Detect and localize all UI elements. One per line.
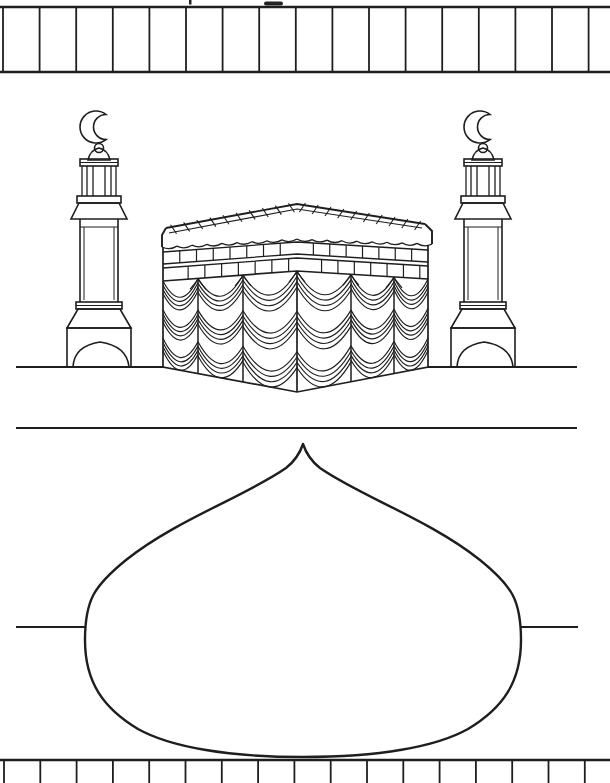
illustration-canvas (0, 0, 610, 783)
top-border-stripes (3, 7, 589, 72)
onion-dome-outline (85, 444, 521, 757)
kiswa-belt (163, 242, 428, 281)
kaaba-roof (162, 204, 432, 247)
dome-illustration (16, 444, 578, 757)
bottom-border (0, 760, 610, 783)
kaaba-illustration (162, 203, 432, 392)
left-minaret (67, 111, 131, 367)
coloring-page (0, 0, 610, 783)
bottom-border-stripes (4, 760, 585, 783)
cut-off-text-fragment (189, 0, 283, 6)
right-minaret (451, 111, 515, 367)
kiswa-drapes (163, 271, 428, 387)
top-border (0, 7, 610, 72)
